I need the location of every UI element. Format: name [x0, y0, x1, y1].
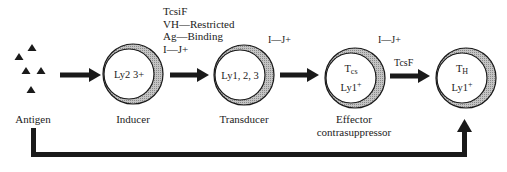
- inducer-transducer-annotation: TcsiF VH—Restricted Ag—Binding I—J+: [163, 5, 234, 55]
- effector-label-line1: Effector: [336, 113, 372, 125]
- effector-sup-text: +: [357, 80, 362, 89]
- th-sub-text: H: [462, 67, 468, 76]
- effector-th-top-annotation: I—J+: [378, 34, 401, 46]
- arrow-effector-to-th: [390, 69, 430, 83]
- transducer-effector-annotation: I—J+: [268, 34, 291, 46]
- effector-ly-text: Ly1: [341, 82, 357, 93]
- effector-sub-text: cs: [351, 67, 358, 76]
- effector-marker: Tcs Ly1+: [341, 62, 362, 94]
- inducer-marker-text: Ly2 3+: [114, 69, 144, 80]
- annotation-vh-restricted: VH—Restricted: [163, 18, 234, 31]
- th-sup-text: +: [468, 80, 473, 89]
- transducer-label: Transducer: [219, 113, 268, 125]
- arrow-transducer-to-effector: [280, 68, 319, 82]
- effector-label-line2: contrasuppressor: [317, 126, 392, 138]
- antigen-label: Antigen: [15, 113, 50, 125]
- arrow-inducer-to-transducer: [170, 68, 209, 82]
- th-ly-text: Ly1: [452, 82, 468, 93]
- arrow-antigen-to-inducer: [60, 68, 101, 82]
- transducer-marker-text: Ly1, 2, 3: [221, 70, 258, 81]
- antigen-triangles-icon: [15, 44, 46, 93]
- annotation-ag-binding: Ag—Binding: [163, 30, 234, 43]
- inducer-label: Inducer: [116, 113, 150, 125]
- annotation-tcsif: TcsiF: [163, 5, 234, 18]
- annotation-ij: I—J+: [163, 43, 234, 56]
- th-marker: TH Ly1+: [452, 62, 473, 94]
- transducer-marker: Ly1, 2, 3: [221, 69, 258, 82]
- tcsf-annotation: TcsF: [394, 57, 413, 69]
- inducer-marker: Ly2 3+: [114, 68, 144, 81]
- diagram-canvas: [0, 0, 507, 172]
